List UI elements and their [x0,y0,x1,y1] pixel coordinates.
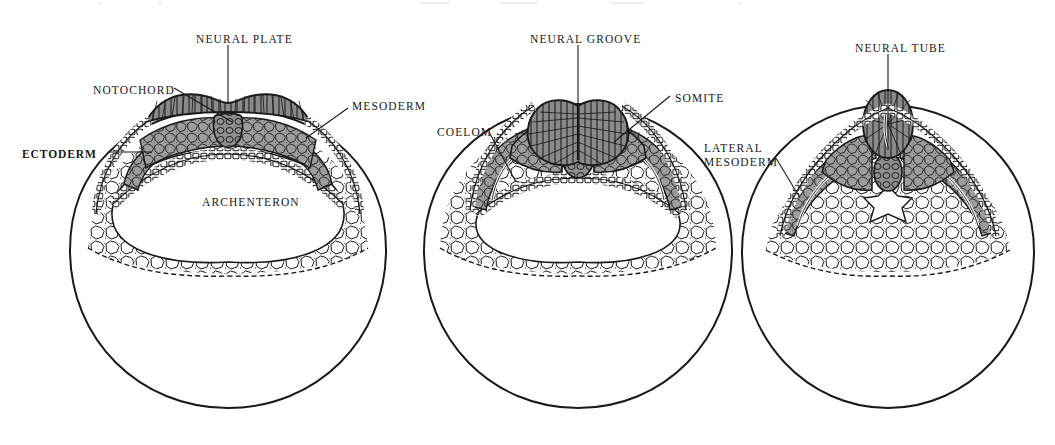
label-ectoderm: ECTODERM [22,148,97,162]
label-notochord: NOTOCHORD [93,84,175,98]
label-mesoderm: MESODERM [352,100,426,114]
label-lateral-mesoderm: LATERAL MESODERM [704,141,778,169]
label-neural-tube: NEURAL TUBE [855,42,946,56]
label-neural-groove: NEURAL GROOVE [530,33,641,47]
neurulation-figure: NEURAL PLATE NOTOCHORD ECTODERM MESODERM… [0,0,1055,445]
stage-1-drawing [70,45,386,408]
label-neural-plate: NEURAL PLATE [196,33,293,47]
label-coelom: COELOM [437,126,492,140]
stage-3-drawing [742,54,1034,408]
label-somite: SOMITE [675,92,724,106]
embryo-drawings [0,0,1055,445]
label-archenteron: ARCHENTERON [202,196,300,210]
